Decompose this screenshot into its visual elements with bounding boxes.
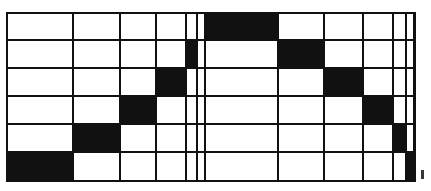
grid-cell-empty (156, 96, 186, 124)
grid-cell-empty (156, 13, 186, 40)
grid-cell-empty (120, 13, 156, 40)
grid-cell-empty (363, 68, 393, 96)
grid-cell-empty (197, 68, 205, 96)
grid-cell-empty (414, 13, 415, 40)
grid-cell-empty (406, 96, 414, 124)
grid-row (7, 13, 415, 40)
grid-cell-filled (414, 152, 415, 181)
grid-cell-empty (7, 96, 73, 124)
grid-row (7, 124, 415, 152)
grid-cell-empty (393, 13, 406, 40)
grid-cell-empty (186, 124, 197, 152)
grid-cell-empty (7, 40, 73, 68)
grid-cell-empty (197, 96, 205, 124)
grid-cell-filled (393, 124, 406, 152)
grid-cell-filled (278, 40, 324, 68)
grid-cell-empty (120, 68, 156, 96)
grid-cell-empty (205, 68, 278, 96)
grid-cell-filled (156, 68, 186, 96)
grid-cell-empty (73, 96, 120, 124)
grid-cell-filled (186, 40, 197, 68)
grid-cell-empty (324, 40, 363, 68)
grid-cell-empty (363, 124, 393, 152)
grid-cell-empty (278, 124, 324, 152)
grid-cell-empty (363, 40, 393, 68)
grid-cell-empty (156, 124, 186, 152)
grid-cell-empty (205, 124, 278, 152)
grid-cell-empty (393, 152, 406, 181)
grid-cell-filled (7, 152, 73, 181)
grid-cell-empty (73, 40, 120, 68)
grid-cell-empty (393, 40, 406, 68)
grid-cell-empty (414, 68, 415, 96)
grid-cell-empty (205, 152, 278, 181)
grid-cell-empty (363, 152, 393, 181)
grid-cell-empty (197, 40, 205, 68)
grid-cell-empty (73, 152, 120, 181)
grid-cell-empty (120, 124, 156, 152)
grid-cell-empty (278, 152, 324, 181)
grid-cell-empty (324, 124, 363, 152)
grid-cell-empty (73, 13, 120, 40)
grid-cell-empty (324, 13, 363, 40)
grid-cell-empty (406, 124, 414, 152)
grid-cell-empty (186, 96, 197, 124)
grid-cell-empty (393, 68, 406, 96)
grid-cell-empty (393, 96, 406, 124)
grid-cell-empty (406, 68, 414, 96)
grid-cell-filled (205, 13, 278, 40)
grid-cell-filled (406, 152, 414, 181)
grid-cell-empty (120, 40, 156, 68)
grid-cell-empty (324, 96, 363, 124)
grid-cell-empty (414, 40, 415, 68)
grid-cell-empty (156, 152, 186, 181)
grid-cell-empty (205, 40, 278, 68)
grid-cell-empty (363, 13, 393, 40)
grid-cell-empty (186, 68, 197, 96)
grid-cell-empty (197, 124, 205, 152)
grid-cell-empty (197, 152, 205, 181)
grid-row (7, 152, 415, 181)
figure-canvas (0, 0, 431, 191)
grid-cell-empty (120, 152, 156, 181)
grid-row (7, 40, 415, 68)
grid-cell-empty (205, 96, 278, 124)
grid-cell-empty (7, 13, 73, 40)
grid-row (7, 68, 415, 96)
grid-cell-filled (120, 96, 156, 124)
grid-cell-filled (73, 124, 120, 152)
grid-cell-empty (186, 13, 197, 40)
grid-cell-empty (414, 124, 415, 152)
grid-cell-empty (186, 152, 197, 181)
grid-cell-empty (414, 96, 415, 124)
grid-cell-empty (406, 40, 414, 68)
grid-cell-empty (156, 40, 186, 68)
edge-speck (421, 170, 424, 179)
grid-cell-empty (197, 13, 205, 40)
grid-cell-empty (7, 68, 73, 96)
grid-cell-filled (363, 96, 393, 124)
grid-cell-empty (73, 68, 120, 96)
grid-cell-filled (324, 68, 363, 96)
grid-cell-empty (406, 13, 414, 40)
grid-cell-empty (278, 13, 324, 40)
grid-row (7, 96, 415, 124)
grid-cell-empty (7, 124, 73, 152)
grid-cell-empty (278, 96, 324, 124)
grid-cell-empty (278, 68, 324, 96)
grid-cell-empty (324, 152, 363, 181)
pattern-grid (6, 12, 416, 182)
